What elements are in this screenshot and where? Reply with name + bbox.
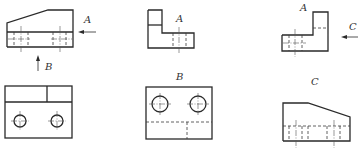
view-c-bottom-right (283, 103, 350, 148)
view-b-label: B (175, 71, 183, 82)
view-a-top-right (282, 12, 328, 57)
arrow-b-label: B (44, 61, 52, 72)
front-view-top-left (7, 10, 73, 53)
view-c-label: C (311, 76, 319, 87)
view-bottom-left (5, 86, 72, 138)
view-arrow-c (341, 35, 358, 39)
arrow-a-label: A (83, 14, 91, 25)
view-b-bottom-middle (146, 87, 212, 139)
view-a-right-label: A (299, 2, 307, 13)
projection-drawing: A B A A C (0, 0, 358, 162)
view-a-top-middle (148, 10, 194, 54)
view-arrow-a (78, 30, 96, 34)
view-arrow-b (36, 55, 40, 71)
view-a-middle-label: A (175, 13, 183, 24)
arrow-c-label: C (349, 21, 357, 32)
